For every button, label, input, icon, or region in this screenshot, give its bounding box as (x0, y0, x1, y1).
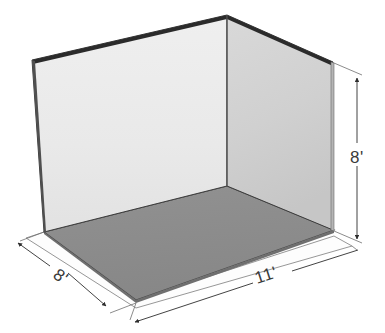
dimension-label-height: 8' (350, 148, 364, 167)
room-3d-illustration: 8' 11' 8' (0, 0, 385, 333)
room-dimension-diagram: 8' 11' 8' (0, 0, 385, 333)
dimension-label-depth: 8' (50, 265, 72, 288)
dimension-height: 8' (334, 63, 364, 243)
